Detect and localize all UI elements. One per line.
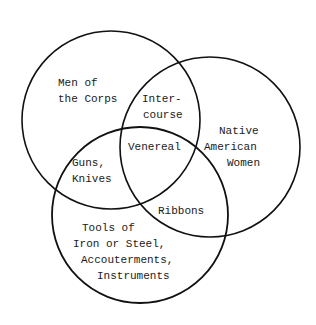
label-women-line2: American (204, 141, 257, 153)
label-women-line1: Native (219, 125, 259, 137)
label-tools-line1: Tools of (82, 222, 135, 234)
label-intercourse-line2: course (143, 109, 183, 121)
label-corps-line2: the Corps (58, 93, 117, 105)
label-venereal: Venereal (128, 141, 181, 153)
label-intercourse-line1: Inter- (142, 93, 182, 105)
label-tools-line3: Accouterments, (81, 254, 173, 266)
label-tools-line4: Instruments (97, 270, 170, 282)
label-guns-line1: Guns, (72, 157, 105, 169)
venn-svg: Men of the Corps Inter- course Native Am… (0, 0, 316, 325)
label-corps-line1: Men of (58, 77, 98, 89)
label-ribbons: Ribbons (158, 205, 204, 217)
label-tools-line2: Iron or Steel, (73, 238, 165, 250)
label-guns-line2: Knives (72, 173, 112, 185)
venn-diagram: Men of the Corps Inter- course Native Am… (0, 0, 316, 325)
label-women-line3: Women (227, 157, 260, 169)
